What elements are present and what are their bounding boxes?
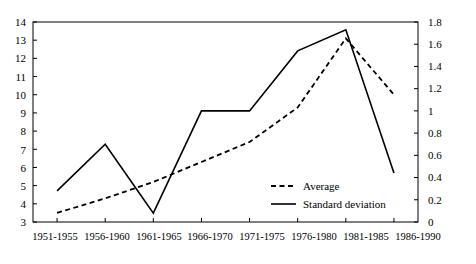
y-right-tick-label: 0.8 [428, 128, 458, 139]
y-right-tick-label: 0.6 [428, 150, 458, 161]
y-right-tick-label: 0.4 [428, 172, 458, 183]
y-left-tick-label: 8 [4, 126, 26, 137]
y-right-tick-label: 0.2 [428, 195, 458, 206]
y-right-tick-label: 1.2 [428, 83, 458, 94]
y-right-tick-label: 0 [428, 217, 458, 228]
series-line-standard-deviation [57, 30, 394, 213]
y-right-tick-label: 1.6 [428, 39, 458, 50]
legend-label-standard-deviation: Standard deviation [303, 199, 386, 210]
y-left-tick-label: 12 [4, 53, 26, 64]
plot-frame [33, 22, 418, 222]
chart-plot-area [0, 0, 476, 264]
y-right-tick-label: 1.8 [428, 17, 458, 28]
y-left-tick-label: 14 [4, 17, 26, 28]
legend-label-average: Average [303, 181, 339, 192]
y-left-tick-label: 7 [4, 145, 26, 156]
y-left-tick-label: 9 [4, 108, 26, 119]
y-left-tick-label: 11 [4, 72, 26, 83]
chart-container: 14 13 12 11 10 9 8 7 6 5 4 3 1.8 1.6 1.4… [0, 0, 476, 264]
y-left-tick-label: 13 [4, 35, 26, 46]
y-left-tick-label: 6 [4, 163, 26, 174]
y-left-tick-label: 4 [4, 199, 26, 210]
y-left-tick-label: 3 [4, 217, 26, 228]
y-left-tick-label: 5 [4, 181, 26, 192]
x-axis-ticks [57, 218, 394, 222]
y-right-tick-label: 1 [428, 106, 458, 117]
series-line-average [57, 38, 394, 213]
y-right-tick-label: 1.4 [428, 61, 458, 72]
y-left-tick-label: 10 [4, 90, 26, 101]
y-axis-right-ticks [414, 22, 418, 222]
y-axis-left-ticks [33, 22, 37, 222]
x-axis-category-label: 1986-1990 [386, 231, 450, 242]
